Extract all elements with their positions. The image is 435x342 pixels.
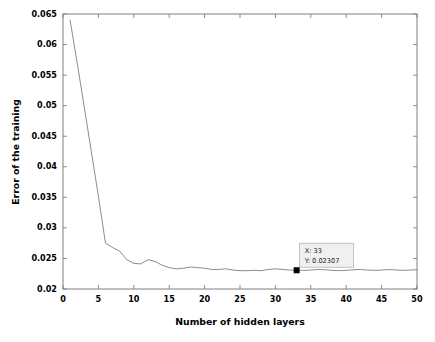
y-tick-label: 0.03 xyxy=(37,222,57,232)
plot-area-background xyxy=(63,14,417,289)
x-tick-label: 30 xyxy=(270,294,282,304)
x-tick-label: 25 xyxy=(234,294,246,304)
y-tick-label: 0.02 xyxy=(37,284,57,294)
x-axis-tick-labels: 05101520253035404550 xyxy=(60,294,423,304)
x-tick-label: 45 xyxy=(376,294,388,304)
data-point-marker[interactable] xyxy=(294,267,300,273)
x-tick-label: 40 xyxy=(341,294,353,304)
y-axis-tick-labels: 0.020.0250.030.0350.040.0450.050.0550.06… xyxy=(31,9,57,294)
y-tick-label: 0.055 xyxy=(31,70,57,80)
x-axis-title: Number of hidden layers xyxy=(175,316,305,327)
y-tick-label: 0.05 xyxy=(37,100,57,110)
data-tip-y-value: Y: 0.02307 xyxy=(304,257,340,265)
y-tick-label: 0.065 xyxy=(31,9,57,19)
x-tick-label: 15 xyxy=(164,294,176,304)
y-tick-label: 0.025 xyxy=(31,253,57,263)
y-axis-title: Error of the training xyxy=(10,99,21,205)
data-tip-x-value: X: 33 xyxy=(305,247,322,255)
y-tick-label: 0.06 xyxy=(37,39,57,49)
x-tick-label: 10 xyxy=(128,294,140,304)
figure-canvas: 0.020.0250.030.0350.040.0450.050.0550.06… xyxy=(0,0,435,342)
y-tick-label: 0.04 xyxy=(37,161,57,171)
x-tick-label: 5 xyxy=(96,294,102,304)
y-tick-label: 0.045 xyxy=(31,131,57,141)
x-tick-label: 20 xyxy=(199,294,211,304)
chart-svg: 0.020.0250.030.0350.040.0450.050.0550.06… xyxy=(0,0,435,342)
x-tick-label: 50 xyxy=(411,294,423,304)
x-tick-label: 35 xyxy=(305,294,317,304)
x-tick-label: 0 xyxy=(60,294,66,304)
y-tick-label: 0.035 xyxy=(31,192,57,202)
